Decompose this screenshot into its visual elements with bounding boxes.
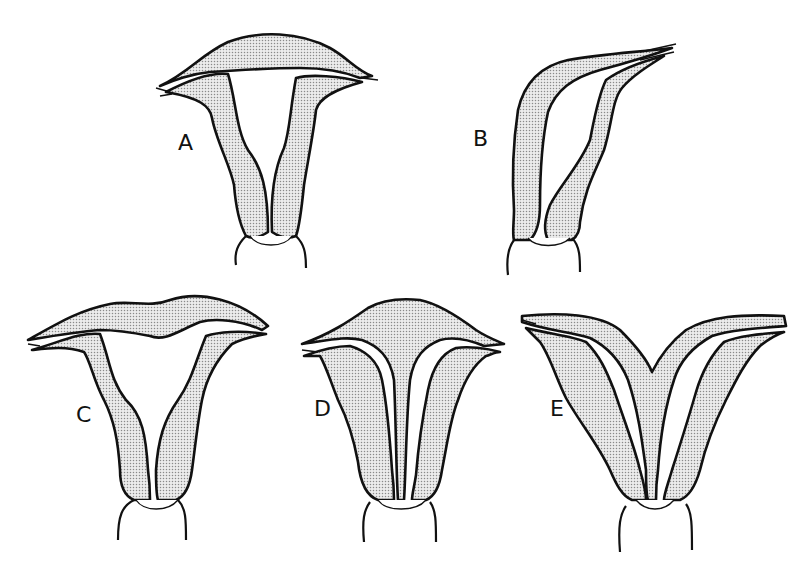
- panel-label-a: A: [178, 132, 193, 154]
- panel-label-e: E: [550, 398, 564, 420]
- panel-b-drawing: [507, 44, 676, 275]
- panel-label-d: D: [314, 398, 331, 420]
- panel-d-drawing: [302, 299, 504, 542]
- panel-label-c: C: [76, 404, 91, 426]
- diagram-canvas: [0, 0, 808, 564]
- panel-e-drawing: [522, 314, 786, 552]
- panel-label-b: B: [473, 128, 488, 150]
- panel-c-drawing: [28, 296, 268, 540]
